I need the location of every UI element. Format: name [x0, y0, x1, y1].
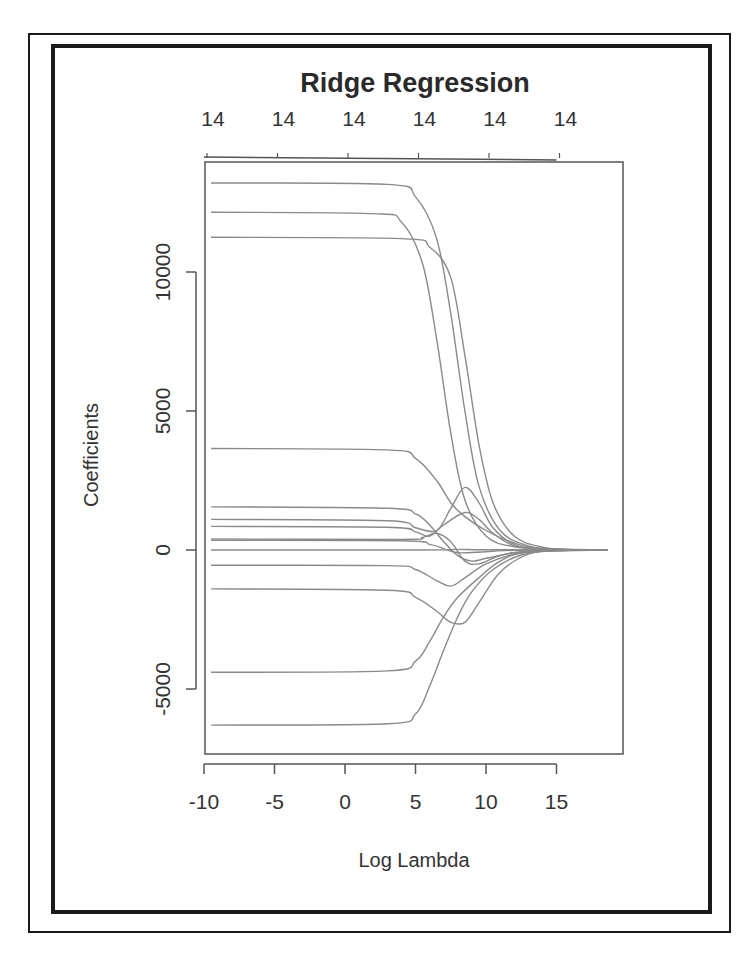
coefficient-curve [211, 449, 607, 551]
chart-title: Ridge Regression [300, 68, 530, 98]
coefficient-curve [211, 550, 607, 725]
coefficient-paths [211, 183, 607, 725]
y-tick-label: 10000 [151, 243, 174, 301]
x-tick-label: 15 [545, 790, 568, 813]
y-tick-label: 5000 [151, 388, 174, 435]
x-axis: -10-5051015 [189, 764, 568, 813]
y-tick-label: -5000 [151, 662, 174, 716]
x-tick-label: -10 [189, 790, 219, 813]
coefficient-curve [211, 507, 607, 561]
top-tick-label: 14 [342, 107, 366, 130]
top-tick-label: 14 [201, 107, 225, 130]
x-tick-label: 5 [410, 790, 422, 813]
top-axis-line [204, 157, 557, 160]
coefficient-curve [211, 512, 607, 550]
coefficient-curve [211, 550, 607, 586]
coefficient-curve [211, 550, 607, 672]
top-tick-label: 14 [483, 107, 507, 130]
y-tick-label: 0 [151, 544, 174, 556]
coefficient-curve [211, 212, 607, 550]
top-tick-label: 14 [554, 107, 578, 130]
top-tick-label: 14 [272, 107, 296, 130]
x-tick-label: 0 [339, 790, 351, 813]
x-tick-label: -5 [265, 790, 284, 813]
x-axis-label: Log Lambda [358, 849, 470, 871]
y-axis-label: Coefficients [80, 403, 102, 507]
x-tick-label: 10 [474, 790, 497, 813]
y-axis: -50000500010000 [151, 243, 196, 716]
top-tick-label: 14 [413, 107, 437, 130]
top-axis: 141414141414 [201, 107, 577, 160]
ridge-regression-chart: Ridge Regression 141414141414 -10-505101… [0, 0, 752, 965]
coefficient-curve [211, 237, 607, 550]
coefficient-curve [211, 550, 607, 624]
